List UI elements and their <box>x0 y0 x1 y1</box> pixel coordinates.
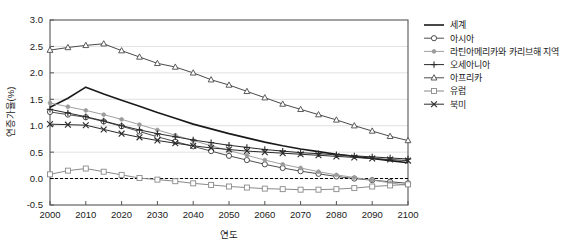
y-tick-label: 1.5 <box>30 94 43 105</box>
chart-canvas: 3.02.52.01.51.00.50.0-0.5 20002010202020… <box>0 0 561 243</box>
y-tick-label: 2.0 <box>30 67 43 78</box>
y-tick-label: 1.0 <box>30 120 43 131</box>
y-tick-label: 3.0 <box>30 14 43 25</box>
x-tick-label: 2000 <box>39 209 60 220</box>
legend-label: 오세아니아 <box>450 60 491 70</box>
legend-label: 북미 <box>450 100 466 110</box>
legend-label: 라틴아메리카와 카리브해 지역 <box>450 46 559 57</box>
x-tick-label: 2040 <box>183 209 204 220</box>
x-tick-label: 2080 <box>326 209 347 220</box>
growth-rate-line-chart: 3.02.52.01.51.00.50.0-0.5 20002010202020… <box>0 0 561 243</box>
x-axis-title: 연도 <box>220 229 238 240</box>
legend-label: 세계 <box>450 19 466 30</box>
y-axis-title: 연증가율(%) <box>5 87 16 138</box>
chart-background <box>0 0 561 243</box>
x-tick-label: 2070 <box>290 209 311 220</box>
x-tick-label: 2020 <box>111 209 132 220</box>
legend-label: 아프리카 <box>450 73 482 83</box>
y-tick-label: 0.5 <box>30 147 43 158</box>
x-tick-label: 2090 <box>362 209 383 220</box>
y-tick-label: 0.0 <box>30 173 43 184</box>
x-tick-label: 2030 <box>147 209 168 220</box>
x-tick-label: 2010 <box>75 209 96 220</box>
y-tick-label: 2.5 <box>30 41 43 52</box>
x-tick-label: 2060 <box>254 209 275 220</box>
legend-label: 유럽 <box>450 86 466 96</box>
x-tick-label: 2100 <box>397 209 418 220</box>
legend-label: 아시아 <box>450 34 475 44</box>
x-tick-label: 2050 <box>218 209 239 220</box>
